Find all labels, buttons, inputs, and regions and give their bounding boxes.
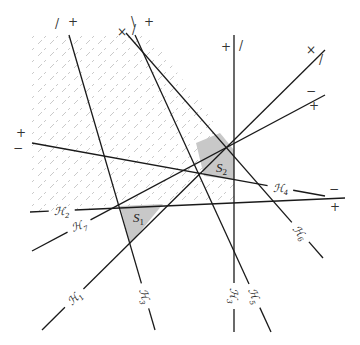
sign-marker: + <box>330 200 340 214</box>
sign-marker: + <box>309 99 319 113</box>
sign-marker: / <box>319 53 324 67</box>
sign-marker: + <box>16 126 26 140</box>
hyperplane-diagram: ℋ1ℋ2ℋ3ℋ4ℋ5ℋ6ℋ3ℋ7 /+×\/++/×/−++−−+ S1S2 <box>0 0 360 345</box>
sign-marker: + <box>221 40 231 54</box>
sign-marker: × <box>306 43 316 57</box>
hyperplane-label-h5: ℋ5 <box>243 286 263 306</box>
hyperplane-label-h7v: ℋ3 <box>225 288 240 304</box>
sign-marker: + <box>68 15 78 29</box>
sign-marker: − <box>306 84 316 98</box>
sign-marker: / <box>55 17 60 31</box>
sign-marker: − <box>13 141 23 155</box>
hyperplane-label-h3: ℋ3 <box>134 287 153 307</box>
sign-marker: / <box>239 39 244 53</box>
sign-marker: × <box>117 25 127 39</box>
hyperplane-label-h7: ℋ7 <box>70 218 90 238</box>
hyperplane-label-h6: ℋ6 <box>289 222 311 244</box>
hyperplane-label-h4: ℋ4 <box>273 182 288 197</box>
sign-marker: + <box>144 15 154 29</box>
sign-marker: / <box>132 23 137 37</box>
hyperplane-label-h1: ℋ1 <box>64 288 86 310</box>
sign-marker: − <box>329 182 339 196</box>
